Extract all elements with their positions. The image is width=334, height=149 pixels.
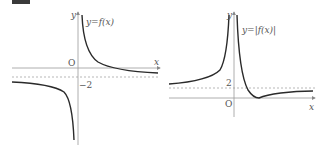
graph-abs-f: y x O 2 y=|f(x)| xyxy=(169,10,315,117)
y-axis-label: y xyxy=(70,10,77,20)
y-axis-label: y xyxy=(226,10,233,20)
graph-f: y x O −2 y=f(x) xyxy=(12,10,160,145)
origin-label: O xyxy=(68,58,75,68)
origin-label: O xyxy=(225,99,232,109)
graphs-figure: y x O −2 y=f(x) y x O 2 y=|f(x)| xyxy=(0,0,334,149)
curve-label: y=f(x) xyxy=(85,17,115,27)
x-axis-label: x xyxy=(309,102,314,112)
asymptote-label: −2 xyxy=(79,80,92,90)
x-axis-label: x xyxy=(154,57,159,67)
curve-label: y=|f(x)| xyxy=(241,25,276,36)
curve-left-branch xyxy=(169,15,229,84)
curve-left-branch xyxy=(12,82,74,140)
asymptote-label: 2 xyxy=(226,78,232,88)
